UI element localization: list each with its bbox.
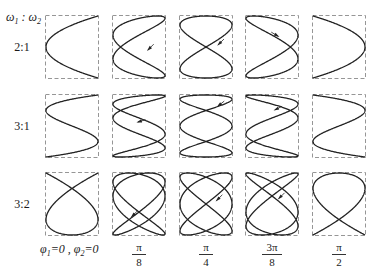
- direction-arrow-icon: [274, 106, 282, 110]
- lissajous-curve: [180, 16, 232, 78]
- lissajous-curve: [246, 16, 298, 78]
- phase-denominator: 8: [119, 255, 159, 268]
- lissajous-panel-3-1-col3: [245, 94, 299, 158]
- row-label-3-1: 3:1: [2, 119, 42, 134]
- lissajous-curve: [246, 95, 298, 157]
- lissajous-curve: [313, 95, 365, 157]
- phase-numerator: π: [199, 241, 213, 255]
- lissajous-panel-3-2-col2: [179, 172, 233, 236]
- caption-separator: ,: [65, 242, 74, 256]
- lissajous-curve: [180, 95, 232, 157]
- phase-label-3pi-8: 3π 8: [252, 241, 292, 268]
- lissajous-curve: [180, 173, 232, 235]
- omega2-symbol: ω: [28, 10, 36, 24]
- lissajous-curve: [113, 16, 165, 78]
- frequency-ratio-header: ω1 : ω2: [6, 10, 41, 26]
- lissajous-panel-3-2-col1: [112, 172, 166, 236]
- row-label-2-1: 2:1: [2, 40, 42, 55]
- lissajous-curve: [113, 173, 165, 235]
- lissajous-panel-3-1-col1: [112, 94, 166, 158]
- omega2-subscript: 2: [37, 17, 41, 26]
- phase-numerator: π: [332, 241, 346, 255]
- phi1-symbol: φ: [40, 242, 47, 256]
- ratio-separator: :: [18, 10, 28, 24]
- lissajous-curve: [113, 95, 165, 157]
- lissajous-panel-3-2-col3: [245, 172, 299, 236]
- phase-denominator: 2: [319, 255, 359, 268]
- lissajous-panel-3-1-col4: [312, 94, 366, 158]
- lissajous-panel-3-2-col4: [312, 172, 366, 236]
- lissajous-curve: [46, 95, 98, 157]
- row-label-3-2: 3:2: [2, 197, 42, 212]
- phase-denominator: 8: [252, 255, 292, 268]
- lissajous-panel-2-1-col3: [245, 15, 299, 79]
- direction-arrow-icon: [136, 119, 145, 122]
- phase-label-pi-8: π 8: [119, 241, 159, 268]
- phase-label-pi-4: π 4: [186, 241, 226, 268]
- phase-numerator: 3π: [262, 241, 281, 255]
- phase-label-pi-2: π 2: [319, 241, 359, 268]
- initial-phase-caption: φ1=0 , φ2=0: [40, 242, 99, 258]
- lissajous-panel-3-1-col2: [179, 94, 233, 158]
- lissajous-panel-2-1-col2: [179, 15, 233, 79]
- lissajous-panel-2-1-col0: [45, 15, 99, 79]
- lissajous-panel-3-1-col0: [45, 94, 99, 158]
- lissajous-curve: [46, 16, 98, 78]
- lissajous-panel-2-1-col1: [112, 15, 166, 79]
- lissajous-panel-3-2-col0: [45, 172, 99, 236]
- lissajous-curve: [313, 16, 365, 78]
- direction-arrow-icon: [147, 44, 154, 51]
- lissajous-panel-2-1-col4: [312, 15, 366, 79]
- lissajous-curve: [46, 173, 98, 235]
- lissajous-curve: [313, 173, 365, 235]
- phase-numerator: π: [132, 241, 146, 255]
- phi2-value: =0: [84, 242, 98, 256]
- phase-denominator: 4: [186, 255, 226, 268]
- lissajous-curve: [246, 173, 298, 235]
- phi1-value: =0: [51, 242, 65, 256]
- direction-arrow-icon: [278, 193, 285, 200]
